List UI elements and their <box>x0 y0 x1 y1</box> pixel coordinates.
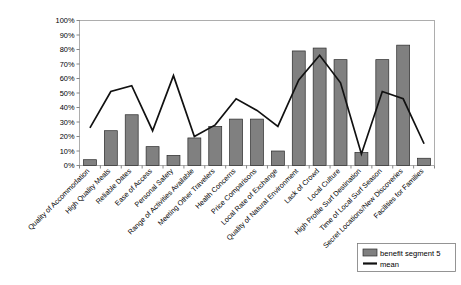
legend-label-benefit-segment-5: benefit segment 5 <box>380 249 440 258</box>
y-axis-tick-marks <box>77 21 80 166</box>
bar <box>83 160 96 166</box>
bar <box>230 119 243 165</box>
bar <box>418 158 431 165</box>
legend: benefit segment 5 mean <box>358 244 456 272</box>
y-axis-tick-label: 40% <box>60 103 75 112</box>
bar <box>313 48 326 165</box>
legend-label-mean: mean <box>380 260 399 269</box>
legend-swatch-benefit-segment-5 <box>363 249 377 256</box>
y-axis-tick-label: 60% <box>60 74 75 83</box>
y-axis-tick-label: 0% <box>64 161 75 170</box>
bar <box>104 131 117 166</box>
x-axis-tick-labels: Quality of AccommodationHigh Quality Mea… <box>26 166 426 250</box>
x-axis-tick-marks <box>80 166 435 169</box>
bar <box>397 45 410 165</box>
y-axis-tick-label: 90% <box>60 31 75 40</box>
bar <box>376 60 389 166</box>
bar <box>251 119 264 165</box>
y-axis-tick-label: 70% <box>60 60 75 69</box>
chart-container: 100%90%80%70%60%50%40%30%20%10%0% Qualit… <box>0 0 461 285</box>
bar <box>188 138 201 166</box>
bar <box>125 115 138 166</box>
bar-line-chart: 100%90%80%70%60%50%40%30%20%10%0% Qualit… <box>0 0 461 285</box>
y-axis-tick-label: 80% <box>60 45 75 54</box>
y-axis-tick-label: 30% <box>60 118 75 127</box>
y-axis-tick-label: 20% <box>60 132 75 141</box>
bar <box>271 151 284 166</box>
bar <box>209 126 222 165</box>
y-axis-tick-label: 10% <box>60 147 75 156</box>
y-axis-tick-labels: 100%90%80%70%60%50%40%30%20%10%0% <box>56 16 75 170</box>
bar <box>167 155 180 165</box>
y-axis-tick-label: 50% <box>60 89 75 98</box>
y-axis-tick-label: 100% <box>56 16 75 25</box>
bar <box>146 147 159 166</box>
bar <box>292 51 305 166</box>
